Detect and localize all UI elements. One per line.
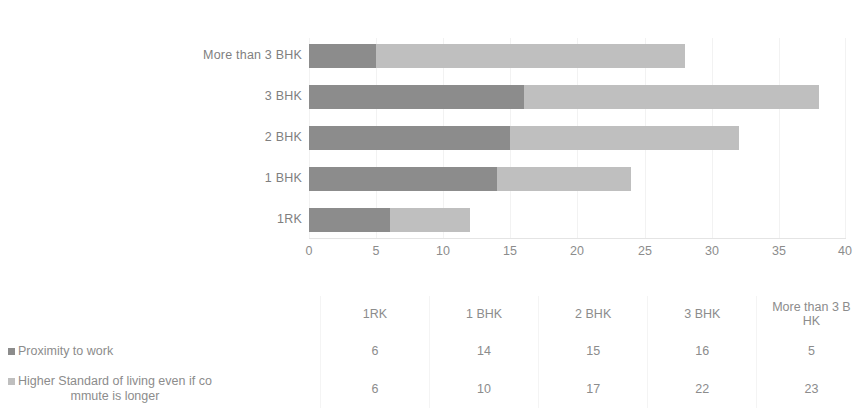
y-axis-label-1rk: 1RK	[150, 212, 302, 226]
x-tick-5: 5	[373, 244, 380, 258]
table-row: Higher Standard of living even if co mmu…	[0, 366, 866, 412]
x-tick-40: 40	[838, 244, 852, 258]
table-cell-value: 15	[539, 336, 648, 366]
bar-segment-proximity-to-work	[309, 44, 376, 68]
table-cell-value: 5	[757, 336, 866, 366]
table-column-separator	[647, 296, 648, 408]
bar-more-than-3-bhk	[309, 44, 685, 68]
legend-item-proximity-to-work: Proximity to work	[0, 336, 320, 366]
table-column-separator	[429, 296, 430, 408]
x-axis-tick-labels: 0 5 10 15 20 25 30 35 40	[309, 244, 846, 266]
table-column-separator	[320, 296, 321, 408]
legend-label-line2: mmute is longer	[18, 389, 212, 404]
legend-swatch-icon	[8, 378, 15, 385]
bar-1-bhk	[309, 167, 631, 191]
table-row: Proximity to work 6 14 15 16 5	[0, 336, 866, 366]
bar-segment-proximity-to-work	[309, 208, 390, 232]
table-cell-value: 10	[429, 366, 538, 412]
table-header-label: 3 BHK	[648, 307, 757, 321]
table-header-more-than-3-bhk: More than 3 B HK	[757, 292, 866, 336]
table-cell-value: 16	[648, 336, 757, 366]
y-axis-category-labels: More than 3 BHK 3 BHK 2 BHK 1 BHK 1RK	[150, 38, 302, 238]
table-cell-value: 6	[320, 336, 429, 366]
table-header-label: 2 BHK	[539, 307, 648, 321]
table-cell-value: 6	[320, 366, 429, 412]
bar-1rk	[309, 208, 470, 232]
bar-segment-higher-standard-of-living	[510, 126, 738, 150]
bar-segment-proximity-to-work	[309, 126, 510, 150]
table-header-row: 1RK 1 BHK 2 BHK 3 BHK More than 3 B	[0, 292, 866, 336]
table-header-1rk: 1RK	[320, 292, 429, 336]
bar-segment-higher-standard-of-living	[497, 167, 631, 191]
bar-segment-higher-standard-of-living	[376, 44, 685, 68]
x-tick-0: 0	[306, 244, 313, 258]
table-header-1-bhk: 1 BHK	[429, 292, 538, 336]
x-tick-25: 25	[638, 244, 652, 258]
chart-plot-area: More than 3 BHK 3 BHK 2 BHK 1 BHK 1RK	[0, 0, 866, 290]
stacked-bar-chart-with-data-table: More than 3 BHK 3 BHK 2 BHK 1 BHK 1RK	[0, 0, 866, 418]
table-cell-value: 22	[648, 366, 757, 412]
table-cell-value: 23	[757, 366, 866, 412]
bar-segment-higher-standard-of-living	[390, 208, 471, 232]
bar-segment-proximity-to-work	[309, 85, 524, 109]
table-header-label-line1: More than 3 B	[772, 300, 851, 314]
legend-swatch-icon	[8, 348, 15, 355]
x-tick-35: 35	[772, 244, 786, 258]
x-tick-10: 10	[436, 244, 450, 258]
table-cell-value: 14	[429, 336, 538, 366]
table-header-label-line2: HK	[803, 314, 820, 328]
bars-container	[309, 38, 846, 238]
y-axis-label-1-bhk: 1 BHK	[150, 171, 302, 185]
table-header-corner-cell	[0, 292, 320, 336]
y-axis-label-more-than-3-bhk: More than 3 BHK	[150, 48, 302, 62]
legend-label: Proximity to work	[18, 344, 113, 359]
legend-item-higher-standard-of-living: Higher Standard of living even if co mmu…	[0, 366, 320, 412]
table-cell-value: 17	[539, 366, 648, 412]
table-header-label: 1RK	[320, 307, 429, 321]
table-column-separator	[538, 296, 539, 408]
x-tick-30: 30	[705, 244, 719, 258]
x-tick-20: 20	[570, 244, 584, 258]
x-tick-15: 15	[503, 244, 517, 258]
gridline-40	[845, 38, 846, 238]
table-header-label: 1 BHK	[429, 307, 538, 321]
chart-data-table: 1RK 1 BHK 2 BHK 3 BHK More than 3 B	[0, 292, 866, 418]
bar-2-bhk	[309, 126, 739, 150]
y-axis-label-3-bhk: 3 BHK	[150, 89, 302, 103]
x-axis-line	[309, 238, 846, 239]
legend-label-line1: Higher Standard of living even if co	[18, 374, 212, 389]
bar-3-bhk	[309, 85, 819, 109]
bar-segment-higher-standard-of-living	[524, 85, 819, 109]
table-header-3-bhk: 3 BHK	[648, 292, 757, 336]
table-header-2-bhk: 2 BHK	[539, 292, 648, 336]
y-axis-label-2-bhk: 2 BHK	[150, 130, 302, 144]
gridline-35	[779, 38, 780, 238]
table-column-separator	[756, 296, 757, 408]
bar-segment-proximity-to-work	[309, 167, 497, 191]
